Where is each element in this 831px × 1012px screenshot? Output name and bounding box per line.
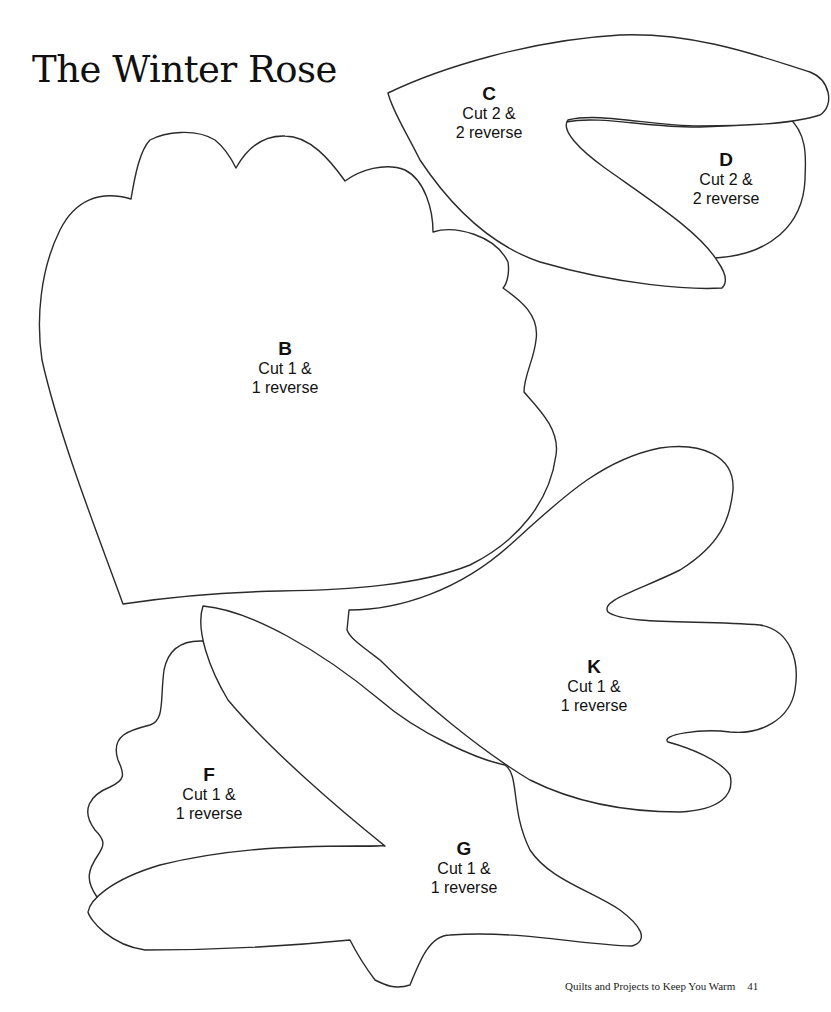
piece-letter: F bbox=[176, 765, 243, 785]
piece-instruction: Cut 1 & bbox=[252, 359, 319, 378]
piece-instruction: Cut 1 & bbox=[176, 785, 243, 804]
piece-instruction: 2 reverse bbox=[456, 123, 523, 142]
piece-letter: C bbox=[456, 84, 523, 104]
piece-letter: G bbox=[431, 839, 498, 859]
piece-instruction: 1 reverse bbox=[176, 804, 243, 823]
piece-instruction: 2 reverse bbox=[693, 189, 760, 208]
piece-letter: B bbox=[252, 339, 319, 359]
book-title: Quilts and Projects to Keep You Warm bbox=[565, 980, 735, 992]
piece-instruction: Cut 1 & bbox=[431, 859, 498, 878]
piece-instruction: Cut 2 & bbox=[693, 170, 760, 189]
piece-instruction: 1 reverse bbox=[561, 696, 628, 715]
page-footer: Quilts and Projects to Keep You Warm41 bbox=[565, 980, 758, 992]
piece-label-b: B Cut 1 & 1 reverse bbox=[252, 339, 319, 397]
piece-letter: D bbox=[693, 150, 760, 170]
piece-label-g: G Cut 1 & 1 reverse bbox=[431, 839, 498, 897]
piece-instruction: Cut 2 & bbox=[456, 104, 523, 123]
page-number: 41 bbox=[747, 980, 758, 992]
piece-label-f: F Cut 1 & 1 reverse bbox=[176, 765, 243, 823]
piece-instruction: Cut 1 & bbox=[561, 677, 628, 696]
piece-instruction: 1 reverse bbox=[252, 378, 319, 397]
piece-letter: K bbox=[561, 657, 628, 677]
piece-label-d: D Cut 2 & 2 reverse bbox=[693, 150, 760, 208]
piece-instruction: 1 reverse bbox=[431, 878, 498, 897]
piece-label-k: K Cut 1 & 1 reverse bbox=[561, 657, 628, 715]
piece-label-c: C Cut 2 & 2 reverse bbox=[456, 84, 523, 142]
